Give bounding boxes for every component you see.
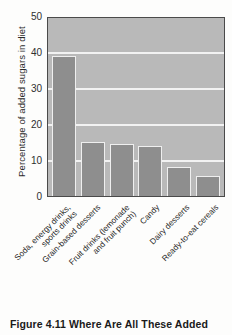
plot-area xyxy=(47,17,225,197)
bar[interactable] xyxy=(110,144,134,196)
bar[interactable] xyxy=(52,56,76,196)
bar-slot xyxy=(165,18,194,196)
x-category-label: Dairy desserts xyxy=(78,203,191,316)
bar-slot xyxy=(136,18,165,196)
y-tick-label: 0 xyxy=(18,192,42,202)
y-tick-label: 30 xyxy=(18,84,42,94)
bar-slot xyxy=(193,18,222,196)
y-tick-label: 50 xyxy=(18,12,42,22)
bar[interactable] xyxy=(196,176,220,196)
x-axis-category-labels: Soda, energy drinks,sports drinksGrain-b… xyxy=(47,197,225,312)
bar-series xyxy=(48,18,224,196)
bar-slot xyxy=(79,18,108,196)
y-tick-label: 40 xyxy=(18,48,42,58)
bar-slot xyxy=(50,18,79,196)
figure-container: Percentage of added sugars in diet 01020… xyxy=(0,0,232,335)
bar-slot xyxy=(107,18,136,196)
y-tick-label: 20 xyxy=(18,120,42,130)
figure-caption: Figure 4.11 Where Are All These Added xyxy=(10,318,226,330)
bar[interactable] xyxy=(167,167,191,196)
bar[interactable] xyxy=(81,142,105,196)
y-tick-label: 10 xyxy=(18,156,42,166)
bar[interactable] xyxy=(138,146,162,196)
